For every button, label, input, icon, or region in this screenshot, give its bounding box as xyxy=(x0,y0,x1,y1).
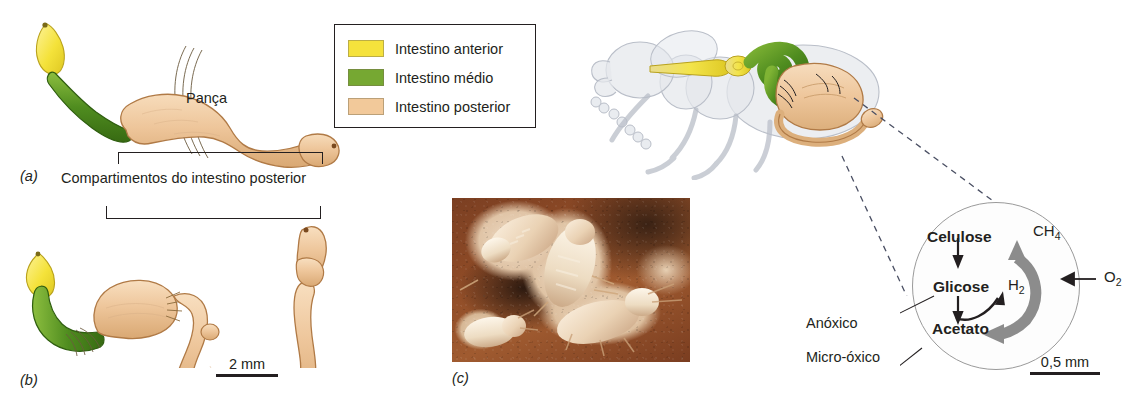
panel-c-termite-photo xyxy=(452,198,690,362)
panel-a-gut-illustration xyxy=(14,18,344,168)
oxygen-label: O2 xyxy=(1104,268,1122,288)
arrow-hydrogen-release xyxy=(956,298,998,320)
colon-lobe-b xyxy=(201,324,219,340)
panel-b-gut-illustration xyxy=(14,216,344,368)
gray-arrow-head-up xyxy=(1008,240,1026,260)
termite-4 xyxy=(462,310,538,350)
midgut-shape-a xyxy=(47,72,132,142)
cellulose-label: Celulose xyxy=(927,228,992,246)
hindgut-compartments-label-a: Compartimentos do intestino posterior xyxy=(61,170,306,186)
leader-line-top xyxy=(854,98,1008,212)
scale-bar-gut-label: 2 mm xyxy=(216,356,278,372)
legend-label-midgut: Intestino médio xyxy=(395,70,493,86)
photo-termites-overlay xyxy=(452,198,690,362)
legend-label-hindgut: Intestino posterior xyxy=(395,99,510,115)
gray-cycle-arrow xyxy=(1002,258,1036,334)
legend-item-foregut: Intestino anterior xyxy=(348,34,535,63)
scale-bar-circle: 0,5 mm xyxy=(1030,354,1100,375)
oxygen-influx-arrow xyxy=(1062,273,1096,285)
hindgut-bulb-segment-b xyxy=(296,258,323,286)
legend-swatch-foregut xyxy=(348,40,384,57)
methane-label: CH4 xyxy=(1033,222,1061,242)
acetate-label: Acetato xyxy=(932,320,989,338)
legend-item-midgut: Intestino médio xyxy=(348,63,535,92)
legend-label-foregut: Intestino anterior xyxy=(395,41,503,57)
foregut-shape-a xyxy=(36,24,64,74)
panel-a-letter: (a) xyxy=(20,168,38,184)
scale-bar-gut: 2 mm xyxy=(216,356,278,377)
scale-bar-circle-label: 0,5 mm xyxy=(1030,354,1100,370)
anoxic-label: Anóxico xyxy=(806,315,858,331)
legend-box: Intestino anterior Intestino médio Intes… xyxy=(334,24,536,128)
termite-gut-figure: (a) Pança Compartimentos do intestino po… xyxy=(0,0,1138,414)
panel-b-letter: (b) xyxy=(20,372,38,388)
panel-c-letter: (c) xyxy=(452,370,469,386)
midgut-shape-b xyxy=(33,286,104,351)
legend-swatch-midgut xyxy=(348,69,384,86)
microoxic-label: Micro-óxico xyxy=(806,349,880,365)
hydrogen-label: H2 xyxy=(1008,276,1025,296)
panel-a-bracket xyxy=(118,152,323,164)
legend-swatch-hindgut xyxy=(348,98,384,115)
legend-item-hindgut: Intestino posterior xyxy=(348,92,535,121)
metabolism-diagram xyxy=(900,196,1138,396)
microoxic-leader-line xyxy=(900,348,922,378)
anoxic-leader-line xyxy=(900,296,934,324)
glucose-label: Glicose xyxy=(933,278,989,296)
paunch-shape-b xyxy=(94,280,177,338)
paunch-label: Pança xyxy=(186,90,227,106)
